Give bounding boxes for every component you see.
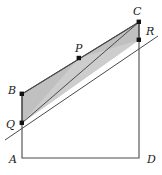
line-qc	[22, 22, 139, 123]
label-c: C	[133, 5, 142, 18]
point-marker-c	[137, 20, 141, 24]
label-q: Q	[6, 118, 15, 131]
label-d: D	[146, 153, 156, 166]
point-marker-r	[137, 38, 141, 42]
label-a: A	[8, 153, 17, 166]
point-marker-p	[77, 56, 81, 60]
point-marker-b	[20, 92, 24, 96]
geometry-canvas: A B C D P Q R	[0, 0, 162, 175]
point-marker-q	[20, 121, 24, 125]
label-b: B	[7, 84, 16, 97]
label-p: P	[74, 42, 83, 55]
geometry-figure: A B C D P Q R	[0, 0, 162, 175]
label-r: R	[145, 25, 154, 38]
